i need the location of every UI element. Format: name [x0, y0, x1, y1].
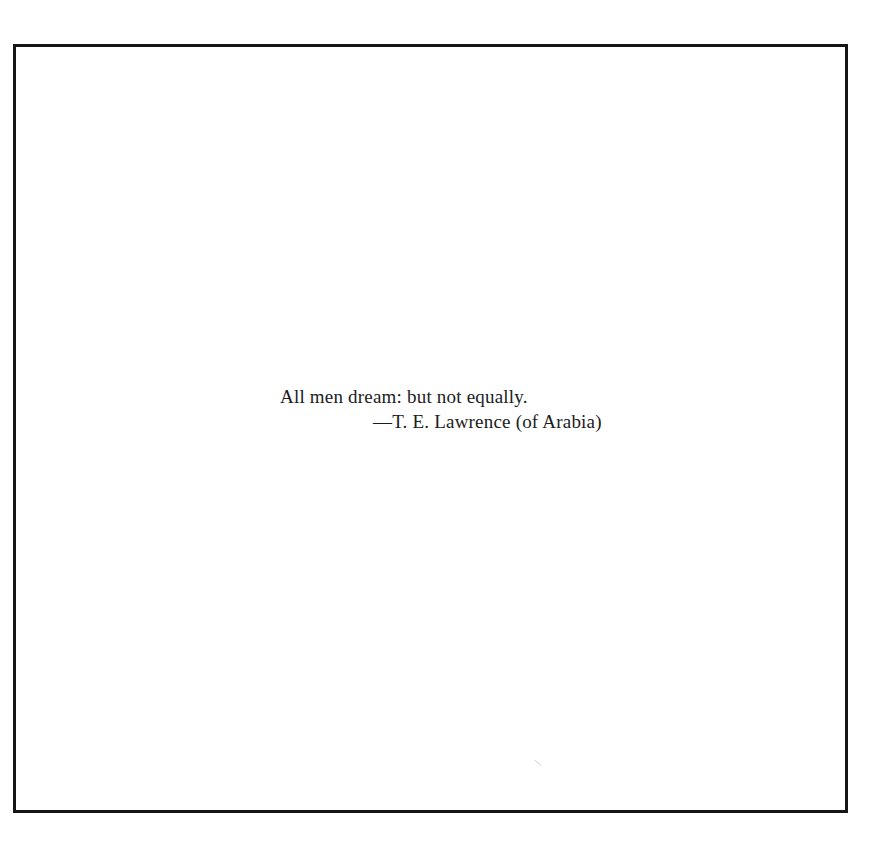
epigraph: All men dream: but not equally. —T. E. L… [280, 384, 602, 434]
page-frame: All men dream: but not equally. —T. E. L… [13, 44, 848, 813]
scanned-page: All men dream: but not equally. —T. E. L… [0, 0, 891, 865]
quote-line: All men dream: but not equally. [280, 384, 602, 409]
attribution-line: —T. E. Lawrence (of Arabia) [373, 409, 602, 434]
scan-artifact [534, 753, 547, 766]
